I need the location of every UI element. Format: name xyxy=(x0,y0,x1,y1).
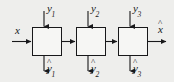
diagram-canvas xyxy=(0,0,174,82)
label-output-xhat-hatwrap: ^x xyxy=(158,24,163,35)
block-1-rect xyxy=(33,28,62,56)
label-output-xhat: ^x xyxy=(158,24,163,35)
label-input-x: x xyxy=(15,25,20,36)
label-top-input-1-subscript: 1 xyxy=(51,10,55,19)
label-bottom-output-2: ^y2 xyxy=(91,63,100,77)
label-input-x-base: x xyxy=(15,24,20,36)
label-bottom-output-1: ^y1 xyxy=(47,63,56,77)
label-bottom-output-3: ^y3 xyxy=(133,63,142,77)
label-bottom-output-3-subscript: 3 xyxy=(137,70,141,79)
block-3-rect xyxy=(119,28,148,56)
label-top-input-2: y2 xyxy=(91,3,100,17)
block-2-rect xyxy=(77,28,106,56)
hat-accent-icon: ^ xyxy=(91,58,95,67)
block-diagram: x ^x y1 y2 y3 ^y1 ^y2 ^y3 xyxy=(0,0,174,82)
label-top-input-1: y1 xyxy=(47,3,56,17)
label-bottom-output-2-subscript: 2 xyxy=(95,70,99,79)
hat-accent-icon: ^ xyxy=(133,58,137,67)
hat-accent-icon: ^ xyxy=(158,19,162,28)
label-top-input-3: y3 xyxy=(133,3,142,17)
label-bottom-output-1-subscript: 1 xyxy=(51,70,55,79)
label-top-input-2-subscript: 2 xyxy=(95,10,99,19)
hat-accent-icon: ^ xyxy=(47,58,51,67)
label-top-input-3-subscript: 3 xyxy=(137,10,141,19)
